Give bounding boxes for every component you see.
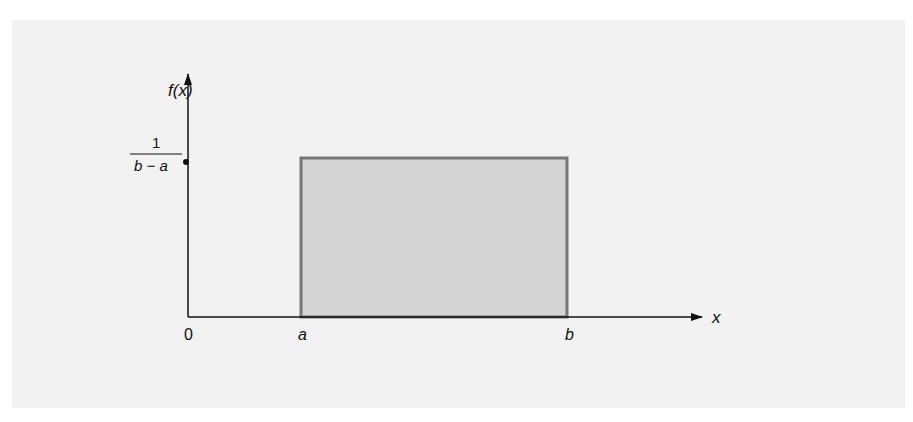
uniform-distribution-chart: f(x) 1 b − a 0 a b x <box>0 0 913 422</box>
x-tick-b: b <box>565 326 574 343</box>
y-tick-denominator: b − a <box>134 157 168 174</box>
x-axis-label: x <box>711 308 721 327</box>
origin-label: 0 <box>184 326 193 343</box>
y-tick-numerator: 1 <box>152 134 160 151</box>
density-rectangle <box>301 158 567 317</box>
y-tick-marker <box>183 159 189 165</box>
y-axis-label: f(x) <box>168 81 193 100</box>
x-tick-a: a <box>298 326 307 343</box>
